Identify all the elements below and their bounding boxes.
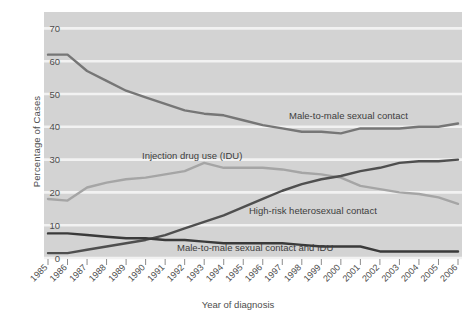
x-tick-label: 1985 — [28, 262, 49, 283]
x-tick-label: 1995 — [223, 262, 244, 283]
series-annotation: High-risk heterosexual contact — [249, 205, 377, 216]
x-tick-label: 1986 — [48, 262, 69, 283]
y-tick-label: 50 — [49, 89, 60, 100]
y-tick-label: 60 — [49, 56, 60, 67]
series-annotation: Injection drug use (IDU) — [142, 150, 242, 161]
y-tick-label: 70 — [49, 23, 60, 34]
plot-background — [44, 12, 462, 258]
x-tick-label: 1997 — [262, 262, 283, 283]
x-tick-label: 2000 — [321, 262, 342, 283]
x-tick-label: 1991 — [145, 262, 166, 283]
x-tick-label: 1993 — [184, 262, 205, 283]
x-tick-label: 1996 — [243, 262, 264, 283]
x-tick-label: 1998 — [282, 262, 303, 283]
y-tick-label: 20 — [49, 187, 60, 198]
y-tick-label: 40 — [49, 121, 60, 132]
x-tick-label: 2004 — [399, 262, 420, 283]
y-tick-label: 30 — [49, 154, 60, 165]
x-tick-label: 1999 — [302, 262, 323, 283]
line-chart-svg: 010203040506070 198519861987198819891990… — [0, 0, 476, 317]
series-annotation: Male-to-male sexual contact — [289, 110, 408, 121]
x-tick-label: 2005 — [419, 262, 440, 283]
x-tick-label: 2006 — [438, 262, 459, 283]
x-axis-ticks — [48, 259, 458, 265]
series-annotation: Male-to-male sexual contact and IDU — [177, 242, 333, 253]
x-tick-label: 1990 — [126, 262, 147, 283]
x-tick-label: 2003 — [380, 262, 401, 283]
x-tick-label: 1989 — [106, 262, 127, 283]
x-tick-label: 1994 — [204, 262, 225, 283]
x-tick-label: 1992 — [165, 262, 186, 283]
x-tick-label: 1987 — [67, 262, 88, 283]
x-axis-tick-labels: 1985198619871988198919901991199219931994… — [28, 262, 459, 283]
y-tick-label: 10 — [49, 220, 60, 231]
x-tick-label: 2002 — [360, 262, 381, 283]
x-tick-label: 2001 — [341, 262, 362, 283]
chart-container: Percentage of Cases Year of diagnosis 01… — [0, 0, 476, 317]
x-tick-label: 1988 — [87, 262, 108, 283]
